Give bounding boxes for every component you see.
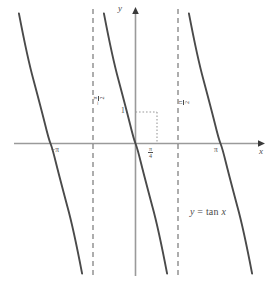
tangent-graph-figure: y x −π π 1 − π 2 π 2 π 4 y = tan x <box>0 0 274 286</box>
fraction-denominator: 2 <box>98 96 105 101</box>
x-axis-label: x <box>259 147 263 156</box>
y-axis-label: y <box>118 4 122 13</box>
asymptote-label-neg-pi-over-2: − π 2 <box>92 96 106 105</box>
fraction-pi-over-2: π 2 <box>177 100 191 105</box>
fraction-denominator: 4 <box>148 152 153 159</box>
tick-label-pi: π <box>214 146 218 154</box>
tick-label-neg-pi: −π <box>51 146 59 154</box>
fraction-pi-over-2: π 2 <box>92 96 106 101</box>
equation-lhs: y <box>190 206 195 217</box>
asymptote-label-pi-over-2: π 2 <box>177 100 191 105</box>
minus-sign: − <box>95 101 102 105</box>
tick-label-one: 1 <box>121 107 125 115</box>
equation-operator: = <box>197 206 203 217</box>
fraction-pi-over-4: π 4 <box>148 146 153 160</box>
equation-function: tan <box>206 206 219 217</box>
y-axis-arrowhead <box>132 7 139 14</box>
tick-label-pi-over-4: π 4 <box>148 146 153 160</box>
plot-canvas <box>0 0 274 286</box>
equation-argument: x <box>221 206 226 217</box>
fraction-denominator: 2 <box>183 100 190 105</box>
equation-annotation: y = tan x <box>190 207 226 217</box>
